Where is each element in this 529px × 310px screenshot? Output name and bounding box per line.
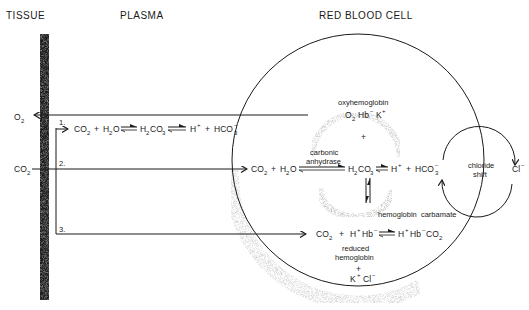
chloride-shift: chloride shift Cl − (442, 126, 525, 217)
svg-text:HCO: HCO (214, 124, 233, 134)
svg-text:O: O (345, 110, 352, 120)
hemoglobin-carbamate-label: hemoglobin carbamate (378, 210, 456, 219)
svg-text:−: − (234, 122, 238, 128)
svg-text:+: + (271, 164, 276, 174)
svg-text:3: 3 (435, 170, 439, 176)
svg-text:Hb: Hb (362, 229, 373, 239)
svg-text:Cl: Cl (512, 164, 520, 174)
svg-text:2: 2 (264, 170, 268, 176)
svg-text:+: + (205, 124, 210, 134)
svg-text:chloride: chloride (468, 161, 494, 170)
svg-text:hemoglobin: hemoglobin (335, 253, 374, 262)
svg-text:−: − (372, 272, 376, 278)
svg-text:+: + (357, 272, 361, 278)
equilibrium-arrow (376, 167, 388, 172)
svg-text:CO: CO (251, 164, 264, 174)
svg-text:+: + (405, 227, 409, 233)
co2-label: CO 2 (14, 164, 31, 176)
header-tissue: TISSUE (6, 10, 45, 21)
svg-text:CO: CO (14, 164, 27, 174)
svg-text:H: H (391, 164, 397, 174)
chloride-shift-arrow-out (443, 126, 515, 165)
svg-text:CO: CO (74, 124, 87, 134)
svg-text:+: + (357, 227, 361, 233)
vertical-equilibrium-arrow (366, 178, 370, 203)
header-plasma: PLASMA (120, 10, 164, 21)
reduced-hemoglobin-label: reduced hemoglobin + (335, 244, 374, 274)
co2-transport-diagram: TISSUE PLASMA RED BLOOD CELL O 2 CO 2 1.… (0, 0, 529, 310)
pathway-1: 1. (56, 118, 68, 129)
svg-text:3: 3 (370, 170, 374, 176)
svg-text:K: K (350, 274, 356, 284)
equilibrium-arrow (168, 127, 186, 132)
kcl-label: K + Cl − (350, 272, 376, 284)
svg-text:+: + (361, 132, 366, 142)
svg-text:anhydrase: anhydrase (306, 157, 341, 166)
svg-text:+: + (339, 229, 344, 239)
svg-text:reduced: reduced (342, 244, 369, 253)
svg-text:Hb: Hb (410, 229, 421, 239)
svg-text:H: H (398, 229, 404, 239)
svg-text:H: H (190, 124, 196, 134)
header-red-blood-cell: RED BLOOD CELL (319, 10, 413, 21)
svg-text:oxyhemoglobin: oxyhemoglobin (338, 98, 388, 107)
pathway-3: 3. (56, 225, 306, 234)
svg-text:+: + (406, 164, 411, 174)
svg-text:2: 2 (21, 118, 25, 124)
svg-text:CO: CO (426, 229, 439, 239)
svg-text:2: 2 (439, 235, 443, 241)
svg-text:H: H (350, 229, 356, 239)
svg-text:3.: 3. (59, 225, 65, 234)
svg-text:Hb: Hb (358, 110, 369, 120)
capillary-wall (40, 34, 49, 300)
plasma-reaction: CO 2 + H 2 O H 2 CO 3 H + + HCO − 3 (74, 122, 238, 136)
svg-text:2: 2 (27, 170, 31, 176)
carbonic-anhydrase-label: carbonic anhydrase (306, 148, 341, 166)
svg-text:O: O (113, 124, 120, 134)
svg-text:shift: shift (473, 170, 488, 179)
o2-label: O 2 (14, 112, 25, 124)
svg-text:−: − (374, 227, 378, 233)
svg-text:2.: 2. (59, 159, 65, 168)
svg-text:+: + (94, 124, 99, 134)
carbonic-anhydrase-arrow (299, 167, 345, 172)
svg-text:1.: 1. (59, 118, 65, 127)
equilibrium-arrow (379, 232, 395, 237)
svg-text:−: − (435, 162, 439, 168)
equilibrium-arrow (121, 127, 137, 132)
svg-text:3: 3 (162, 130, 166, 136)
svg-text:+: + (197, 122, 201, 128)
svg-text:+: + (382, 108, 386, 114)
svg-text:2: 2 (87, 130, 91, 136)
svg-text:O: O (14, 112, 21, 122)
svg-text:3: 3 (234, 130, 238, 136)
rbc-reaction: CO 2 + H 2 O H 2 CO 3 H + + HCO − 3 (251, 162, 439, 176)
svg-text:HCO: HCO (415, 164, 434, 174)
svg-text:−: − (521, 162, 525, 168)
pathway-2: 2. (56, 159, 247, 169)
svg-text:carbonic: carbonic (310, 148, 339, 157)
svg-text:Cl: Cl (363, 274, 371, 284)
reduced-hemoglobin-reaction: CO 2 + H + Hb − H + Hb − CO 2 (316, 227, 443, 241)
svg-text:CO: CO (316, 229, 329, 239)
svg-text:2: 2 (329, 235, 333, 241)
svg-text:−: − (370, 108, 374, 114)
svg-text:+: + (398, 162, 402, 168)
svg-text:O: O (290, 164, 297, 174)
